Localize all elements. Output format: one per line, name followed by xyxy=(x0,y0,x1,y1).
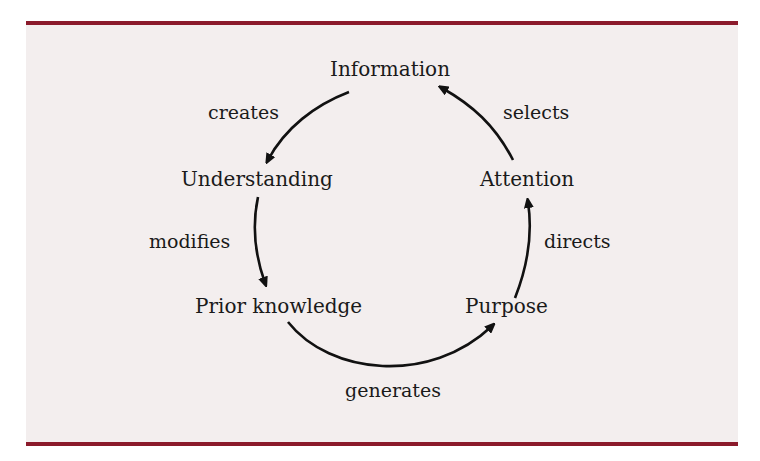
arrow-creates xyxy=(268,92,349,160)
arrow-directs xyxy=(515,202,530,298)
arrow-generates xyxy=(288,322,492,366)
node-attention: Attention xyxy=(480,169,574,189)
arrow-modifies xyxy=(255,197,265,283)
node-information: Information xyxy=(330,59,450,79)
arrow-selects xyxy=(442,88,513,160)
node-purpose: Purpose xyxy=(465,296,548,316)
edge-label-modifies: modifies xyxy=(149,232,230,251)
node-prior-knowledge: Prior knowledge xyxy=(195,296,362,316)
edge-label-selects: selects xyxy=(503,103,569,122)
node-understanding: Understanding xyxy=(181,169,333,189)
edge-label-creates: creates xyxy=(208,103,279,122)
edge-label-generates: generates xyxy=(345,381,441,400)
edge-label-directs: directs xyxy=(544,232,611,251)
